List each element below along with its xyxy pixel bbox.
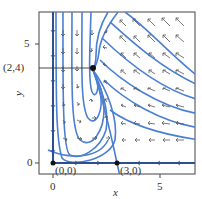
x-axis-label: x [113, 187, 118, 198]
equilibrium-point-3-0 [115, 161, 120, 166]
label-3-0: (3,0) [120, 165, 141, 176]
trajectories [48, 12, 200, 176]
phase-portrait-svg [0, 0, 202, 199]
y-tick-0: 0 [27, 157, 33, 168]
x-tick-5: 5 [157, 181, 163, 192]
label-0-0: (0,0) [55, 165, 76, 176]
phase-portrait-figure: 5 0 0 5 x y (2,4) (0,0) (3,0) [0, 0, 202, 199]
y-axis-label: y [13, 91, 24, 96]
x-tick-0: 0 [50, 181, 56, 192]
arrows-up-left [120, 18, 184, 142]
y-tick-5: 5 [24, 38, 30, 49]
equilibrium-point-2-4 [90, 65, 96, 71]
label-2-4: (2,4) [3, 62, 24, 73]
